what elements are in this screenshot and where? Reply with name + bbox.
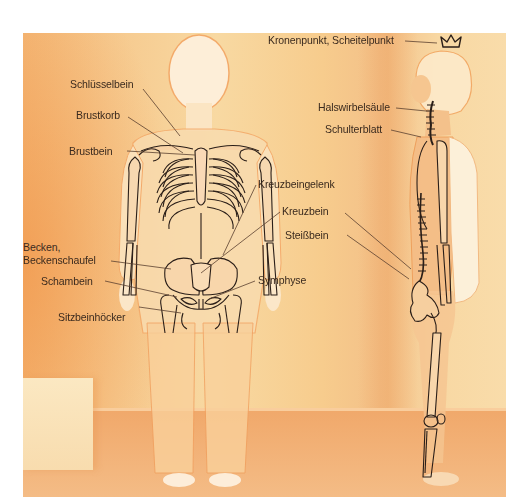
front-figure	[119, 35, 281, 487]
anatomy-illustration: Kronenpunkt, Scheitelpunkt Halswirbelsäu…	[23, 33, 506, 497]
label-halswirbelsaeule: Halswirbelsäule	[318, 101, 390, 113]
label-kreuzbeingelenk: Kreuzbeingelenk	[258, 178, 335, 190]
label-sitzbeinhoecker: Sitzbeinhöcker	[58, 311, 125, 323]
label-beckenschaufel: Beckenschaufel	[23, 254, 96, 266]
label-steissbein: Steißbein	[285, 229, 328, 241]
label-brustbein: Brustbein	[69, 145, 112, 157]
label-brustkorb: Brustkorb	[76, 109, 120, 121]
label-schulterblatt: Schulterblatt	[325, 123, 382, 135]
label-symphyse: Symphyse	[258, 274, 306, 286]
label-kreuzbein: Kreuzbein	[282, 205, 328, 217]
label-kronenpunkt: Kronenpunkt, Scheitelpunkt	[268, 34, 394, 46]
label-becken: Becken,	[23, 241, 60, 253]
label-schambein: Schambein	[41, 275, 93, 287]
crown-icon	[441, 35, 461, 47]
label-schluesselbein: Schlüsselbein	[70, 78, 134, 90]
